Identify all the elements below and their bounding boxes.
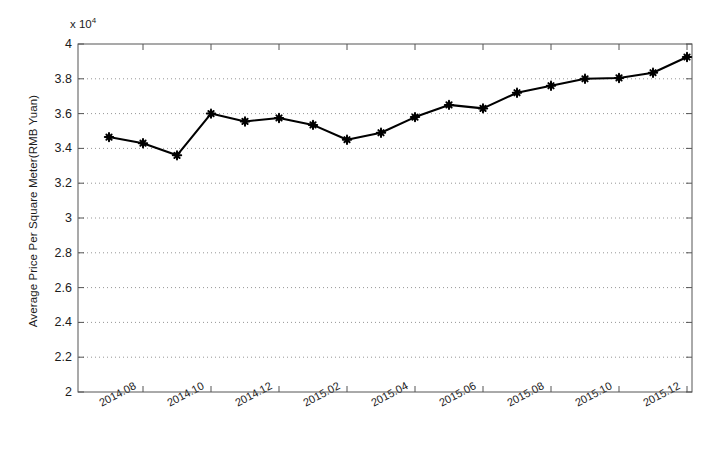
- data-point-marker: [615, 74, 623, 82]
- data-point-marker: [309, 121, 317, 129]
- data-line: [109, 57, 687, 155]
- data-point-marker: [649, 69, 657, 77]
- data-point-marker: [343, 136, 351, 144]
- data-point-marker: [105, 133, 113, 141]
- data-point-marker: [581, 75, 589, 83]
- data-markers: [105, 53, 691, 160]
- data-point-marker: [683, 53, 691, 61]
- data-point-marker: [207, 109, 215, 117]
- data-point-marker: [139, 139, 147, 147]
- plot-svg: [0, 0, 719, 450]
- data-point-marker: [445, 101, 453, 109]
- chart-figure: Average Price Per Square Meter(RMB Yuan)…: [0, 0, 719, 450]
- gridlines: [79, 79, 691, 357]
- data-point-marker: [241, 117, 249, 125]
- data-point-marker: [479, 104, 487, 112]
- data-point-marker: [411, 113, 419, 121]
- data-point-marker: [547, 82, 555, 90]
- data-point-marker: [377, 129, 385, 137]
- data-point-marker: [173, 151, 181, 159]
- data-point-marker: [275, 114, 283, 122]
- data-point-marker: [513, 89, 521, 97]
